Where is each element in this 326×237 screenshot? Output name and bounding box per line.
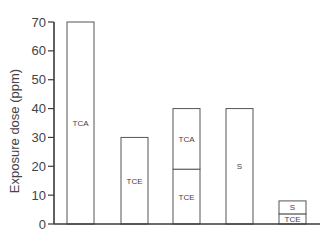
bar-4: S	[226, 109, 253, 224]
stacked-bar-chart: 010203040506070 TCATCETCETCASTCES Exposu…	[0, 0, 326, 237]
y-tick-label: 20	[32, 159, 46, 174]
y-tick-label: 60	[32, 43, 46, 58]
y-tick-label: 70	[32, 15, 46, 30]
bar-2: TCE	[121, 137, 148, 224]
y-tick-label: 30	[32, 130, 46, 145]
y-axis: 010203040506070	[32, 15, 54, 232]
bar-segment-label: TCE	[179, 193, 195, 202]
bar-segment-label: TCE	[285, 215, 301, 224]
bar-1: TCA	[67, 22, 94, 224]
y-tick-label: 40	[32, 101, 46, 116]
y-axis-label: Exposure dose (ppm)	[7, 69, 22, 193]
bar-3: TCETCA	[173, 109, 200, 224]
bar-segment-label: S	[237, 162, 242, 171]
bar-5: TCES	[279, 201, 306, 224]
bar-segment-label: S	[290, 203, 295, 212]
bars: TCATCETCETCASTCES	[67, 22, 306, 224]
y-tick-label: 10	[32, 188, 46, 203]
bar-segment-label: TCE	[127, 177, 143, 186]
bar-segment-label: TCA	[179, 135, 196, 144]
y-tick-label: 0	[39, 217, 46, 232]
y-tick-label: 50	[32, 72, 46, 87]
bar-segment-label: TCA	[73, 119, 90, 128]
